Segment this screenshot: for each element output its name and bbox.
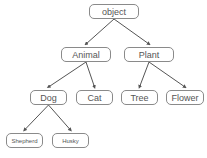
node-label: Dog	[40, 93, 57, 103]
node-dog: Dog	[30, 90, 67, 105]
node-label: Flower	[171, 93, 198, 103]
node-animal: Animal	[61, 47, 111, 62]
node-label: Animal	[72, 50, 100, 60]
node-plant: Plant	[124, 47, 174, 62]
node-label: Shepherd	[11, 138, 37, 144]
edge-plant-flower	[149, 62, 185, 87]
node-tree: Tree	[121, 90, 158, 105]
node-label: object	[102, 7, 126, 17]
edge-object-animal	[86, 19, 114, 44]
edge-object-plant	[114, 19, 149, 44]
node-cat: Cat	[76, 90, 113, 105]
node-shepherd: Shepherd	[6, 133, 43, 148]
node-husky: Husky	[52, 133, 89, 148]
edge-animal-dog	[49, 62, 87, 87]
edge-dog-shepherd	[25, 105, 49, 130]
edge-plant-tree	[140, 62, 150, 87]
node-object: object	[89, 4, 139, 19]
node-flower: Flower	[166, 90, 204, 105]
edge-animal-cat	[86, 62, 95, 87]
node-label: Husky	[62, 138, 79, 144]
node-label: Tree	[130, 93, 148, 103]
edge-dog-husky	[49, 105, 71, 130]
node-label: Cat	[87, 93, 101, 103]
node-label: Plant	[139, 50, 160, 60]
